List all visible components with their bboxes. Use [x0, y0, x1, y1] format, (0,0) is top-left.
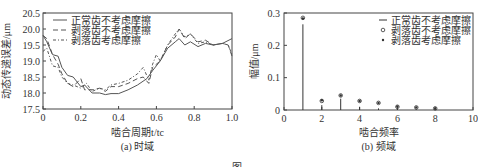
dot-marker — [434, 107, 436, 109]
x-tick-label-a: 0.6 — [150, 112, 163, 123]
y-tick-label-a: 18.5 — [23, 72, 41, 83]
y-tick-label-b: 0 — [275, 105, 280, 116]
x-tick-label-b: 10 — [468, 113, 478, 124]
y-tick-label-a: 20.0 — [23, 24, 41, 35]
legend-label-a: 剥落齿考虑摩擦 — [71, 34, 141, 46]
dot-marker — [340, 94, 342, 96]
dot-marker — [358, 100, 360, 102]
x-axis-label-b: 啮合频率 — [359, 126, 399, 138]
figure: 00.20.40.60.81.017.518.018.519.019.520.0… — [0, 0, 478, 167]
x-tick-label-b: 8 — [433, 113, 438, 124]
figure-caption: 图 — [232, 162, 242, 167]
x-tick-label-b: 0 — [282, 113, 287, 124]
y-axis-label-b: 幅值/μm — [248, 43, 260, 79]
x-tick-label-a: 0 — [41, 112, 46, 123]
x-tick-label-b: 4 — [357, 113, 362, 124]
x-tick-label-b: 2 — [319, 113, 324, 124]
legend-label-b: 剥落齿考虑摩擦 — [391, 34, 461, 46]
dot-marker — [302, 17, 304, 19]
y-tick-label-a: 19.5 — [23, 40, 41, 51]
x-tick-label-a: 0.2 — [75, 112, 88, 123]
dot-marker — [321, 99, 323, 101]
x-tick-label-a: 0.4 — [112, 112, 125, 123]
y-tick-label-a: 18.0 — [23, 88, 41, 99]
x-tick-label-b: 6 — [395, 113, 400, 124]
y-tick-label-b: 0.3 — [268, 8, 281, 19]
caption-a: (a) 时域 — [121, 140, 155, 153]
y-tick-label-a: 20.5 — [23, 8, 41, 19]
y-tick-label-a: 17.5 — [23, 104, 41, 115]
legend-swatch-b — [381, 28, 385, 32]
x-tick-label-a: 0.8 — [188, 112, 201, 123]
y-tick-label-a: 19.0 — [23, 56, 41, 67]
y-tick-label-b: 0.2 — [268, 40, 281, 51]
legend-swatch-b — [382, 39, 384, 41]
dot-marker — [415, 106, 417, 108]
x-tick-label-a: 1.0 — [226, 112, 239, 123]
y-tick-label-b: 0.1 — [268, 72, 281, 83]
x-axis-label-a: 啮合周期t/tc — [111, 126, 164, 138]
dot-marker — [377, 102, 379, 104]
y-axis-label-a: 动态传递误差/μm — [0, 23, 12, 99]
dot-marker — [396, 105, 398, 107]
caption-b: (b) 频域 — [361, 140, 395, 153]
